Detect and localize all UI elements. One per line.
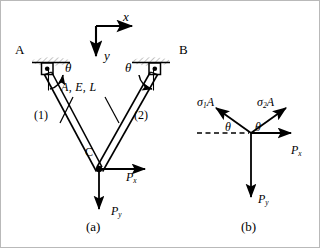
caption-a: (a)	[86, 220, 100, 233]
fbd-angle-theta-right-label: θ	[255, 121, 261, 133]
joint-c-label: C	[85, 146, 93, 158]
sigma1-subscript: 1	[203, 101, 207, 110]
sigma1-area: A	[207, 95, 214, 109]
fbd-px-subscript: x	[298, 149, 301, 158]
axis-indicator	[96, 26, 132, 56]
support-a-label: A	[15, 43, 24, 56]
fbd-load-px-label: Px	[291, 144, 302, 156]
figure-container: A B x y θ θ A, E, L (1) (2) C Px Py (a) …	[0, 0, 320, 248]
panel-b-group	[197, 108, 291, 197]
figure-svg	[1, 1, 320, 248]
member-2-label: (2)	[134, 109, 148, 121]
load-py-label: Py	[111, 205, 122, 217]
sigma2-area: A	[267, 95, 274, 109]
fbd-load-py-label: Py	[258, 193, 269, 205]
angle-theta-right-label: θ	[125, 61, 131, 74]
panel-a-group	[32, 26, 170, 209]
member-2	[97, 72, 158, 172]
force-sigma1a-arrow	[216, 108, 251, 133]
y-axis-label: y	[104, 49, 110, 62]
load-py-subscript: y	[118, 210, 121, 219]
force-sigma2a-label: σ2A	[257, 96, 274, 108]
load-px-subscript: x	[133, 176, 136, 185]
fbd-angle-theta-left-label: θ	[225, 121, 231, 133]
x-axis-label: x	[123, 10, 129, 23]
load-px-label: Px	[126, 171, 137, 183]
support-b-label: B	[179, 43, 188, 56]
sigma2-subscript: 2	[263, 101, 267, 110]
force-sigma1a-label: σ1A	[197, 96, 214, 108]
fbd-py-subscript: y	[265, 198, 268, 207]
caption-b: (b)	[241, 220, 256, 233]
angle-theta-left-label: θ	[65, 61, 71, 74]
member-1-label: (1)	[34, 109, 48, 121]
member-properties-label: A, E, L	[61, 81, 96, 93]
